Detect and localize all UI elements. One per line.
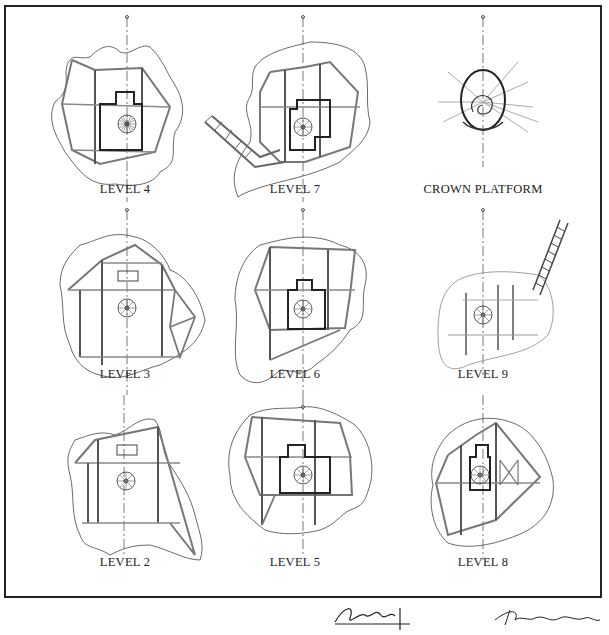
plan-label: LEVEL 3 <box>30 367 220 382</box>
plan-level-3: LEVEL 3 <box>30 205 220 401</box>
floor-plan-drawing <box>388 12 578 208</box>
spiral-stair-icon <box>294 118 312 136</box>
plan-level-8: LEVEL 8 <box>388 395 578 591</box>
plan-level-5: LEVEL 5 <box>200 395 390 591</box>
floor-plan-drawing <box>200 12 390 208</box>
plan-label: LEVEL 4 <box>30 182 220 197</box>
plan-level-9: LEVEL 9 <box>388 205 578 401</box>
handwritten-signature-icon <box>490 600 605 635</box>
spiral-stair-icon <box>118 299 136 317</box>
spiral-stair-icon <box>294 300 312 318</box>
spiral-stair-icon <box>474 306 492 324</box>
plan-level-4: LEVEL 4 <box>30 12 220 208</box>
plan-level-2: LEVEL 2 <box>30 395 220 591</box>
plan-label: LEVEL 7 <box>200 182 390 197</box>
plan-label: LEVEL 5 <box>200 555 390 570</box>
ladder-stair-icon <box>533 220 568 295</box>
plan-level-7: LEVEL 7 <box>200 12 390 208</box>
signature-2 <box>490 600 605 635</box>
floor-plan-drawing <box>30 12 220 208</box>
signature-1 <box>330 600 440 635</box>
plan-crown-platform: CROWN PLATFORM <box>388 12 578 208</box>
spiral-stair-icon <box>471 466 489 484</box>
plan-label: LEVEL 2 <box>30 555 220 570</box>
plan-level-6: LEVEL 6 <box>200 205 390 401</box>
spiral-stair-icon <box>117 472 135 490</box>
plan-label: LEVEL 8 <box>388 555 578 570</box>
plan-label: LEVEL 6 <box>200 367 390 382</box>
spiral-stair-icon <box>294 466 312 484</box>
truss-bridge-icon <box>205 116 285 167</box>
handwritten-signature-icon <box>330 600 440 635</box>
spiral-stair-icon <box>118 115 136 133</box>
plan-label: CROWN PLATFORM <box>388 182 578 197</box>
plan-label: LEVEL 9 <box>388 367 578 382</box>
